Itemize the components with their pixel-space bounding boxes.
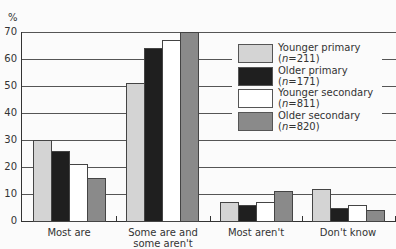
bar xyxy=(366,210,385,222)
x-tick xyxy=(116,216,117,221)
legend-item-younger-primary: Younger primary (n=211) xyxy=(238,44,388,64)
y-tick-label: 10 xyxy=(0,189,17,199)
bar xyxy=(33,140,52,222)
x-category-label: Most aren't xyxy=(211,227,301,238)
bar xyxy=(330,208,349,222)
legend-item-older-secondary: Older secondary (n=820) xyxy=(238,112,388,132)
clipped-title xyxy=(0,0,396,3)
y-tick-label: 0 xyxy=(0,216,17,226)
bar xyxy=(274,191,293,222)
y-tick-label: 40 xyxy=(0,108,17,118)
bar xyxy=(220,202,239,222)
y-tick-label: 30 xyxy=(0,135,17,145)
bar xyxy=(180,32,199,222)
y-tick-label: 20 xyxy=(0,162,17,172)
legend-swatch xyxy=(238,89,273,108)
x-category-label: Don't know xyxy=(303,227,393,238)
gridline xyxy=(21,32,396,33)
bar xyxy=(162,40,181,222)
legend-n: (n=211) xyxy=(278,54,361,65)
legend-n: (n=171) xyxy=(278,77,348,88)
legend-swatch xyxy=(238,44,273,63)
y-axis-unit-label: % xyxy=(8,12,18,23)
y-tick-label: 60 xyxy=(0,54,17,64)
bar xyxy=(126,83,145,222)
legend: Younger primary (n=211) Older primary (n… xyxy=(232,40,382,135)
bar xyxy=(348,205,367,222)
legend-n: (n=820) xyxy=(278,122,360,133)
legend-item-older-primary: Older primary (n=171) xyxy=(238,67,388,87)
x-tick xyxy=(210,216,211,221)
y-tick-label: 70 xyxy=(0,27,17,37)
legend-swatch xyxy=(238,67,273,86)
x-category-label: Most are xyxy=(24,227,114,238)
bar xyxy=(51,151,70,222)
y-axis-line xyxy=(21,32,22,222)
bar xyxy=(312,189,331,222)
legend-n: (n=811) xyxy=(278,99,373,110)
bar xyxy=(144,48,163,222)
bar xyxy=(69,164,88,222)
legend-item-younger-secondary: Younger secondary (n=811) xyxy=(238,89,388,109)
x-tick xyxy=(302,216,303,221)
legend-swatch xyxy=(238,112,273,131)
gridline xyxy=(21,140,396,141)
y-tick-label: 50 xyxy=(0,81,17,91)
x-category-label: Some are andsome aren't xyxy=(118,227,208,249)
bar xyxy=(256,202,275,222)
bar xyxy=(87,178,106,222)
bar xyxy=(238,205,257,222)
